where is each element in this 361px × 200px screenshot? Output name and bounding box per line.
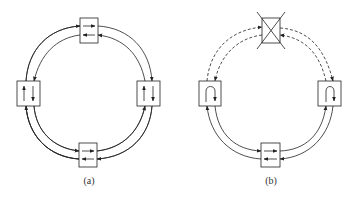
node-bottom-b [261,143,280,167]
outer-arc-top-right [98,26,152,81]
node-right [137,81,160,106]
panel-b-label: (b) [265,175,277,186]
panel-a [17,18,160,167]
node-left [17,81,40,106]
node-top [80,18,98,43]
panel-b [199,12,341,167]
node-right-loopback [318,81,341,106]
panel-a-label: (a) [83,175,94,186]
node-left-loopback [199,81,221,106]
ring-diagram [0,0,361,200]
node-bottom [79,143,97,167]
